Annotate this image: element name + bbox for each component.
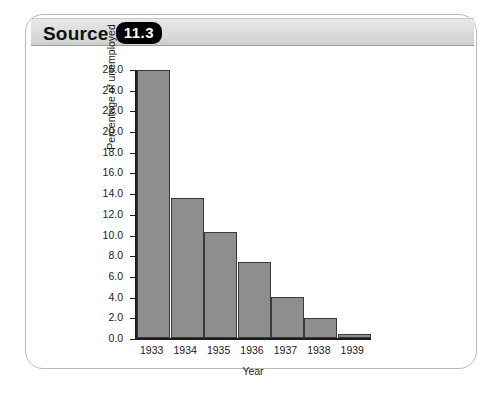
bar — [137, 70, 170, 338]
bar-column — [204, 232, 237, 338]
y-axis-tick-label: 6.0 — [108, 270, 123, 282]
source-number-badge: 11.3 — [116, 22, 162, 44]
source-header-content: Source 11.3 — [43, 19, 162, 47]
y-axis-tick: 24.0 — [130, 91, 135, 92]
bar — [304, 318, 337, 338]
bar-column — [171, 198, 204, 338]
source-header-band: Source 11.3 — [31, 18, 474, 46]
source-title: Source — [43, 24, 109, 43]
plot-area: 26.024.022.020.018.016.014.012.010.08.06… — [135, 63, 371, 345]
y-axis-tick: 18.0 — [130, 153, 135, 154]
y-axis-tick-label: 24.0 — [103, 84, 123, 96]
y-axis-tick-label: 10.0 — [103, 229, 123, 241]
y-axis-tick: 14.0 — [130, 194, 135, 195]
bar-column — [304, 318, 337, 338]
y-axis-tick: 6.0 — [130, 277, 135, 278]
y-axis-tick: 2.0 — [130, 318, 135, 319]
y-axis-tick: 20.0 — [130, 132, 135, 133]
y-axis-tick: 22.0 — [130, 111, 135, 112]
y-axis-tick: 26.0 — [130, 70, 135, 71]
y-axis-tick-label: 12.0 — [103, 208, 123, 220]
bar — [171, 198, 204, 338]
bar-column — [137, 70, 170, 338]
y-axis-tick: 10.0 — [130, 236, 135, 237]
y-axis-tick: 12.0 — [130, 215, 135, 216]
y-axis-tick-label: 20.0 — [103, 125, 123, 137]
y-axis-tick-label: 8.0 — [108, 249, 123, 261]
bar — [204, 232, 237, 338]
x-axis-title: Year — [135, 365, 371, 377]
y-axis-tick-label: 0.0 — [108, 332, 123, 344]
bar-column — [271, 297, 304, 338]
y-axis-tick: 8.0 — [130, 256, 135, 257]
bar-chart: Percentage of unemployed 26.024.022.020.… — [31, 47, 474, 367]
y-axis-tick: 0.0 — [130, 339, 135, 340]
y-axis-tick: 4.0 — [130, 298, 135, 299]
y-axis-tick-label: 4.0 — [108, 291, 123, 303]
bar — [338, 334, 371, 338]
bar-column — [238, 262, 271, 338]
bar-column — [338, 334, 371, 338]
x-axis-tick-label: 1939 — [330, 344, 374, 356]
y-axis-tick-label: 18.0 — [103, 146, 123, 158]
y-axis-tick-label: 2.0 — [108, 311, 123, 323]
y-axis-tick: 16.0 — [130, 173, 135, 174]
bar — [271, 297, 304, 338]
y-axis-tick-label: 16.0 — [103, 166, 123, 178]
bar-series — [137, 63, 371, 340]
y-axis-tick-label: 26.0 — [103, 63, 123, 75]
screenshot-root: Source 11.3 Percentage of unemployed 26.… — [0, 0, 501, 407]
y-axis-tick-label: 14.0 — [103, 187, 123, 199]
y-axis-tick-label: 22.0 — [103, 104, 123, 116]
bar — [238, 262, 271, 338]
